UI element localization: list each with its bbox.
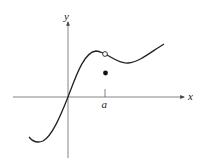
x-axis-label: x — [187, 90, 193, 102]
function-graph: x y a — [0, 0, 204, 164]
function-curve — [29, 44, 164, 142]
tick-label-a: a — [102, 98, 108, 110]
open-circle-hole — [103, 52, 108, 57]
filled-dot-value — [103, 71, 108, 76]
y-axis-label: y — [63, 10, 69, 22]
